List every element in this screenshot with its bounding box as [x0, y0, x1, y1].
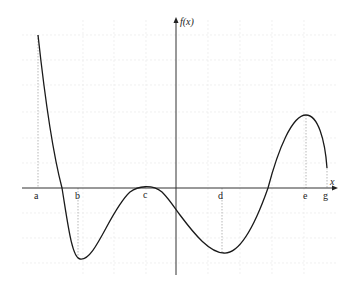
point-label-b: b	[75, 191, 80, 201]
y-axis-arrow-icon	[174, 17, 179, 23]
point-label-e: e	[303, 191, 307, 201]
dotted-guides	[38, 35, 327, 259]
function-graph	[0, 0, 354, 295]
point-label-g: g	[323, 191, 328, 201]
function-curve	[38, 35, 327, 259]
point-label-c: c	[143, 190, 147, 200]
point-label-a: a	[34, 191, 38, 201]
x-axis-label: x	[330, 176, 334, 187]
function-label: f(x)	[180, 16, 194, 27]
point-label-d: d	[218, 191, 223, 201]
grid	[22, 20, 336, 275]
